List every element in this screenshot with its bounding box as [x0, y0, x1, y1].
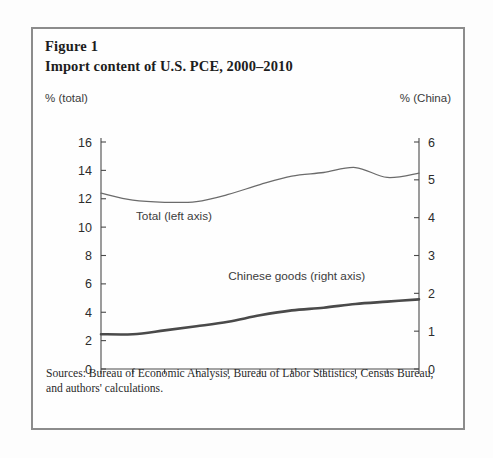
svg-text:6: 6 — [85, 277, 92, 291]
series-label-total: Total (left axis) — [136, 209, 212, 223]
svg-text:12: 12 — [78, 192, 92, 206]
figure-title-block: Figure 1 Import content of U.S. PCE, 200… — [45, 37, 445, 76]
svg-text:2: 2 — [428, 287, 435, 301]
svg-text:5: 5 — [428, 173, 435, 187]
svg-text:8: 8 — [85, 249, 92, 263]
series-annotations: Total (left axis)Chinese goods (right ax… — [136, 209, 365, 283]
line-chart-plot: 0246810121416 0123456 200020022004200620… — [33, 107, 463, 377]
svg-text:4: 4 — [428, 211, 435, 225]
data-series-group — [101, 167, 419, 334]
series-line-chinese-goods — [101, 299, 419, 334]
series-line-total — [101, 167, 419, 202]
svg-text:14: 14 — [78, 164, 92, 178]
figure-number: Figure 1 — [45, 37, 445, 56]
svg-text:3: 3 — [428, 249, 435, 263]
series-label-chinese-goods: Chinese goods (right axis) — [228, 269, 365, 283]
svg-text:10: 10 — [78, 221, 92, 235]
right-axis-unit-label: % (China) — [400, 92, 451, 104]
source-note: Sources: Bureau of Economic Analysis, Bu… — [46, 367, 450, 396]
svg-text:2: 2 — [85, 334, 92, 348]
right-axis-ticks: 0123456 — [414, 136, 435, 377]
svg-text:6: 6 — [428, 136, 435, 150]
figure-title: Import content of U.S. PCE, 2000–2010 — [45, 56, 445, 76]
left-axis-ticks: 0246810121416 — [78, 136, 106, 377]
svg-text:1: 1 — [428, 325, 435, 339]
scanned-page-background: Figure 1 Import content of U.S. PCE, 200… — [0, 0, 493, 458]
left-axis-unit-label: % (total) — [45, 92, 88, 104]
figure-frame: Figure 1 Import content of U.S. PCE, 200… — [31, 27, 465, 430]
svg-text:16: 16 — [78, 136, 92, 150]
svg-text:4: 4 — [85, 306, 92, 320]
